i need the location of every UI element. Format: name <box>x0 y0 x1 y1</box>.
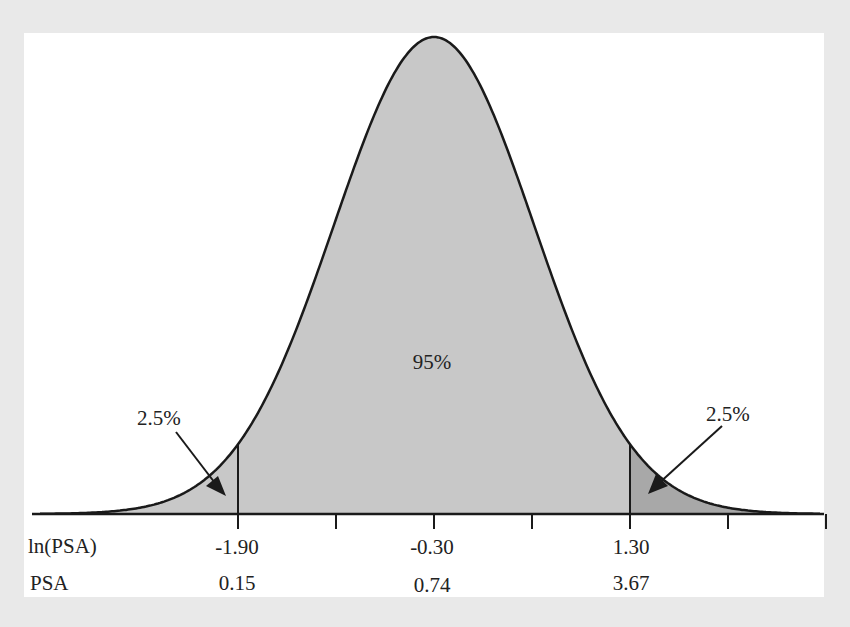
ln-tick-label-right: 1.30 <box>613 537 650 558</box>
center-percent-label: 95% <box>413 352 452 373</box>
ln-psa-axis-title: ln(PSA) <box>28 536 97 557</box>
psa-axis-title: PSA <box>30 573 69 594</box>
ln-tick-label-left: -1.90 <box>215 537 259 558</box>
right-arrow-icon <box>648 426 722 494</box>
right-tail-percent-label: 2.5% <box>706 404 750 425</box>
psa-tick-label-right: 3.67 <box>613 573 650 594</box>
psa-tick-label-center: 0.74 <box>414 575 451 596</box>
psa-tick-label-left: 0.15 <box>219 573 256 594</box>
x-axis-ticks <box>238 514 826 529</box>
central-area <box>40 37 630 514</box>
ln-tick-label-center: -0.30 <box>410 537 454 558</box>
left-tail-percent-label: 2.5% <box>137 408 181 429</box>
normal-distribution-chart <box>0 0 850 627</box>
